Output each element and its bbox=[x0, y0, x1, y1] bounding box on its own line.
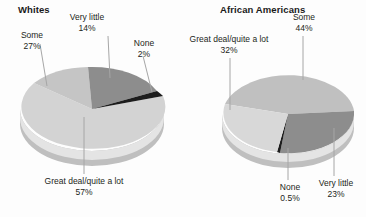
callout-label: Some bbox=[21, 30, 43, 40]
callout-label: None bbox=[134, 38, 154, 48]
callout-label: None bbox=[280, 182, 300, 192]
callout-label: Great deal/quite a lot bbox=[190, 34, 269, 44]
pie-slices-whites bbox=[21, 67, 165, 149]
callout-value: 23% bbox=[312, 189, 360, 200]
callout-very-little-whites: Very little 14% bbox=[58, 12, 116, 33]
callout-value: 2% bbox=[126, 49, 162, 60]
callout-value: 14% bbox=[58, 23, 116, 34]
callout-value: 57% bbox=[28, 187, 140, 198]
callout-some-african-americans: Some 44% bbox=[284, 12, 324, 33]
callout-some-whites: Some 27% bbox=[8, 30, 56, 51]
callout-great-deal-african-americans: Great deal/quite a lot 32% bbox=[183, 34, 275, 55]
callout-very-little-african-americans: Very little 23% bbox=[312, 178, 360, 199]
callout-none-african-americans: None 0.5% bbox=[271, 182, 309, 203]
pie-chart-african-americans: African Americans Some 44% bbox=[183, 0, 366, 217]
pie-chart-whites: Whites bbox=[0, 0, 183, 217]
callout-label: Very little bbox=[70, 12, 105, 22]
callout-value: 27% bbox=[8, 41, 56, 52]
callout-value: 44% bbox=[284, 23, 324, 34]
callout-label: Great deal/quite a lot bbox=[45, 176, 124, 186]
callout-label: Very little bbox=[319, 178, 354, 188]
callout-value: 0.5% bbox=[271, 193, 309, 204]
callout-none-whites: None 2% bbox=[126, 38, 162, 59]
pie-slices-african-americans bbox=[223, 75, 354, 153]
callout-great-deal-whites: Great deal/quite a lot 57% bbox=[28, 176, 140, 197]
callout-value: 32% bbox=[183, 45, 275, 56]
callout-label: Some bbox=[293, 12, 315, 22]
